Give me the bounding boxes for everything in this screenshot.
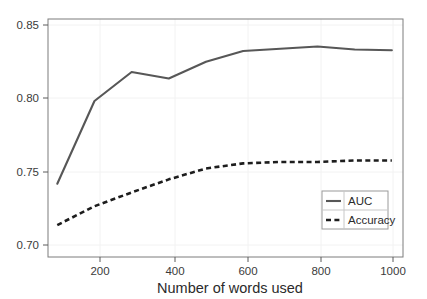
- y-tick-label-085: 0.85: [17, 19, 39, 31]
- y-tick-label-070: 0.70: [17, 239, 39, 251]
- y-tick-label-075: 0.75: [17, 166, 39, 178]
- x-axis-ticks: [100, 257, 393, 262]
- x-tick-label-600: 600: [238, 265, 257, 277]
- y-tick-label-080: 0.80: [17, 92, 39, 104]
- x-tick-label-200: 200: [90, 265, 109, 277]
- chart-legend[interactable]: AUC Accuracy: [322, 191, 396, 229]
- x-tick-label-1000: 1000: [380, 265, 406, 277]
- x-tick-label-800: 800: [311, 265, 330, 277]
- line-chart: 0.85 0.80 0.75 0.70 200 400 600 800 1000…: [0, 0, 427, 299]
- legend-label-auc: AUC: [348, 195, 372, 207]
- x-tick-label-400: 400: [165, 265, 184, 277]
- y-axis-ticks: [43, 25, 48, 245]
- chart-figure: 0.85 0.80 0.75 0.70 200 400 600 800 1000…: [0, 0, 427, 299]
- x-axis-title: Number of words used: [157, 280, 303, 296]
- series-line-auc: [57, 47, 392, 184]
- legend-label-accuracy: Accuracy: [348, 214, 396, 226]
